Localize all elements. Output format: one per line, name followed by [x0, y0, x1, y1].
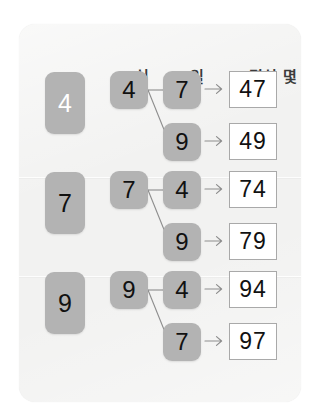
tens-digit-tile[interactable]: 9	[110, 271, 148, 309]
right-arrow-icon	[204, 282, 226, 296]
ones-digit-tile[interactable]: 4	[163, 271, 201, 309]
ones-digit-tile[interactable]: 7	[163, 323, 201, 361]
ones-digit-tile[interactable]: 9	[163, 223, 201, 261]
answer-box[interactable]: 97	[229, 323, 277, 360]
right-arrow-icon	[204, 134, 226, 148]
group-tile[interactable]: 4	[45, 72, 85, 134]
tens-digit-tile[interactable]: 4	[110, 71, 148, 109]
answer-box[interactable]: 79	[229, 223, 277, 260]
answer-box[interactable]: 47	[229, 71, 277, 108]
right-arrow-icon	[204, 182, 226, 196]
worksheet-card: 십 일 몇십 몇 4 4 7 47 9 49 7 7 4 74 9 79 9 9	[19, 24, 301, 402]
group-tile[interactable]: 7	[45, 172, 85, 234]
answer-box[interactable]: 49	[229, 123, 277, 160]
ones-digit-tile[interactable]: 9	[163, 123, 201, 161]
ones-digit-tile[interactable]: 7	[163, 71, 201, 109]
answer-box[interactable]: 74	[229, 171, 277, 208]
tens-digit-tile[interactable]: 7	[110, 171, 148, 209]
answer-box[interactable]: 94	[229, 271, 277, 308]
right-arrow-icon	[204, 82, 226, 96]
ones-digit-tile[interactable]: 4	[163, 171, 201, 209]
right-arrow-icon	[204, 234, 226, 248]
group-tile[interactable]: 9	[45, 272, 85, 334]
right-arrow-icon	[204, 334, 226, 348]
